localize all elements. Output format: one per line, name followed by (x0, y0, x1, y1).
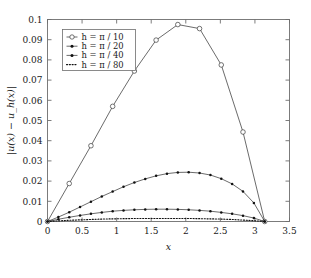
data-point (101, 195, 104, 198)
data-point (198, 172, 201, 175)
data-point (155, 175, 158, 178)
data-point (101, 211, 104, 214)
data-point (89, 143, 94, 148)
series-line-3 (48, 218, 265, 221)
y-tick-label: 0.09 (22, 35, 42, 45)
data-point (155, 208, 158, 211)
data-point (144, 208, 147, 211)
data-point (209, 210, 212, 213)
data-point (242, 214, 245, 217)
legend-circle-marker-icon (70, 35, 74, 39)
data-point (57, 216, 60, 219)
data-point (197, 26, 202, 31)
data-point (253, 202, 256, 205)
y-tick-label: 0.01 (22, 197, 42, 207)
data-point (144, 178, 147, 181)
data-point (242, 190, 245, 193)
data-point (154, 38, 159, 43)
data-point (166, 172, 169, 175)
y-tick-label: 0.04 (22, 136, 42, 146)
data-point (253, 217, 256, 220)
data-point (198, 209, 201, 212)
data-point (209, 174, 212, 177)
x-tick-label: 2.5 (213, 226, 228, 236)
data-point (90, 213, 93, 216)
data-point (176, 22, 181, 27)
data-point (231, 213, 234, 216)
y-tick-label: 0.03 (22, 156, 42, 166)
data-point (68, 211, 71, 214)
x-tick-label: 0.5 (75, 226, 90, 236)
y-tick-label: 0.02 (22, 176, 42, 186)
y-tick-label: 0.06 (22, 96, 42, 106)
axis-labels-layer: 00.511.522.533.500.010.020.030.040.050.0… (5, 15, 297, 252)
data-point (241, 130, 246, 135)
data-point (111, 210, 114, 213)
data-point (133, 209, 136, 212)
data-point (177, 171, 180, 174)
y-axis-title: |u(x) − u_h(x)| (5, 86, 17, 155)
x-axis-title: x (166, 241, 172, 252)
data-point (67, 181, 72, 186)
data-point (231, 183, 234, 186)
legend-dot-marker-icon (71, 54, 74, 57)
x-tick-label: 0 (45, 226, 51, 236)
data-point (133, 181, 136, 184)
data-point (110, 104, 115, 109)
data-point (68, 216, 71, 219)
figure-container: h = π / 10h = π / 20h = π / 40h = π / 80… (0, 0, 311, 278)
legend-label: h = π / 80 (82, 60, 124, 70)
data-point (219, 63, 224, 68)
data-point (79, 214, 82, 217)
data-point (177, 208, 180, 211)
data-point (57, 218, 60, 221)
data-point (187, 209, 190, 212)
data-point (90, 200, 93, 203)
x-tick-label: 1 (114, 226, 120, 236)
x-tick-label: 2 (183, 226, 189, 236)
data-point (220, 177, 223, 180)
y-tick-label: 0.07 (22, 75, 42, 85)
x-tick-label: 1.5 (144, 226, 159, 236)
legend-layer[interactable]: h = π / 10h = π / 20h = π / 40h = π / 80 (63, 30, 136, 71)
chart-canvas: h = π / 10h = π / 20h = π / 40h = π / 80… (0, 0, 311, 278)
y-tick-label: 0.08 (22, 55, 42, 65)
data-point (220, 211, 223, 214)
data-point (166, 208, 169, 211)
y-tick-label: 0 (37, 217, 43, 227)
x-tick-label: 3.5 (282, 226, 297, 236)
y-tick-label: 0.05 (22, 116, 42, 126)
data-point (187, 171, 190, 174)
data-point (122, 186, 125, 189)
data-point (79, 206, 82, 209)
data-point (111, 190, 114, 193)
x-tick-label: 3 (252, 226, 258, 236)
legend-dot-marker-icon (71, 45, 74, 48)
data-point (122, 209, 125, 212)
y-tick-label: 0.1 (28, 15, 42, 25)
